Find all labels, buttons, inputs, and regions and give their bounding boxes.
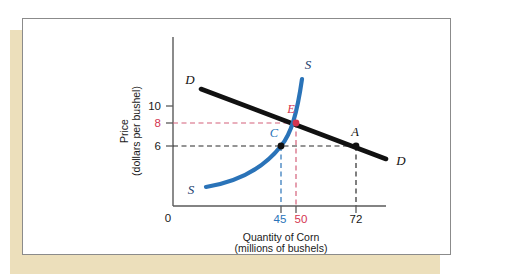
supply-curve-label-bottom: S [188,182,195,197]
y-tick-marks [166,106,173,146]
y-tick-label-8: 8 [155,117,161,129]
figure-root: S S D D E C A 10 8 6 0 45 50 72 Quantity… [0,0,520,278]
y-tick-label-6: 6 [155,140,161,152]
x-tick-label-72: 72 [350,213,363,225]
point-label-E: E [286,102,295,116]
point-marker-E [293,120,300,127]
demand-curve-label-bottom: D [395,153,406,168]
supply-curve-label-top: S [305,57,312,72]
axes-group [173,37,386,206]
point-label-A: A [350,125,359,139]
figure-frame: S S D D E C A 10 8 6 0 45 50 72 Quantity… [22,18,451,255]
demand-curve-label-top: D [184,72,195,87]
y-axis-title-line2: (dollars per bushel) [130,86,142,176]
origin-label: 0 [165,212,171,224]
y-tick-label-10: 10 [148,100,161,112]
y-axis-title-line1: Price [118,119,130,143]
x-tick-label-50: 50 [295,213,308,225]
x-tick-marks [281,206,356,213]
x-tick-label-45: 45 [274,213,287,225]
point-marker-C [278,143,285,150]
point-marker-A [353,143,360,150]
supply-demand-chart: S S D D E C A 10 8 6 0 45 50 72 Quantity… [23,19,451,255]
x-axis-title-line2: (millions of bushels) [235,242,328,254]
point-label-C: C [270,126,279,140]
